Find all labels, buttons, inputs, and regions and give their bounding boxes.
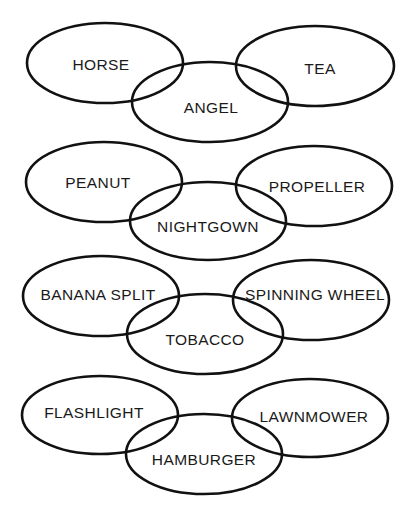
venn-diagram-canvas: HORSE TEA ANGEL PEANUT PROPELLER NIGHTGO… bbox=[0, 0, 411, 516]
label-peanut: PEANUT bbox=[65, 174, 130, 191]
ellipse-group-1: HORSE TEA ANGEL bbox=[27, 23, 394, 142]
ellipse-group-3: BANANA SPLIT SPINNING WHEEL TOBACCO bbox=[23, 256, 389, 374]
label-nightgown: NIGHTGOWN bbox=[157, 218, 259, 235]
label-propeller: PROPELLER bbox=[269, 178, 366, 195]
label-tea: TEA bbox=[304, 60, 336, 77]
ellipse-group-2: PEANUT PROPELLER NIGHTGOWN bbox=[26, 142, 392, 260]
label-lawnmower: LAWNMOWER bbox=[260, 408, 369, 425]
label-tobacco: TOBACCO bbox=[165, 331, 244, 348]
diagram-svg: HORSE TEA ANGEL PEANUT PROPELLER NIGHTGO… bbox=[0, 0, 411, 516]
label-horse: HORSE bbox=[72, 56, 129, 73]
label-flashlight: FLASHLIGHT bbox=[44, 404, 144, 421]
label-banana-split: BANANA SPLIT bbox=[40, 286, 155, 303]
label-spinning-wheel: SPINNING WHEEL bbox=[245, 286, 385, 303]
label-angel: ANGEL bbox=[184, 99, 239, 116]
ellipse-group-4: FLASHLIGHT LAWNMOWER HAMBURGER bbox=[22, 376, 388, 494]
label-hamburger: HAMBURGER bbox=[152, 451, 256, 468]
